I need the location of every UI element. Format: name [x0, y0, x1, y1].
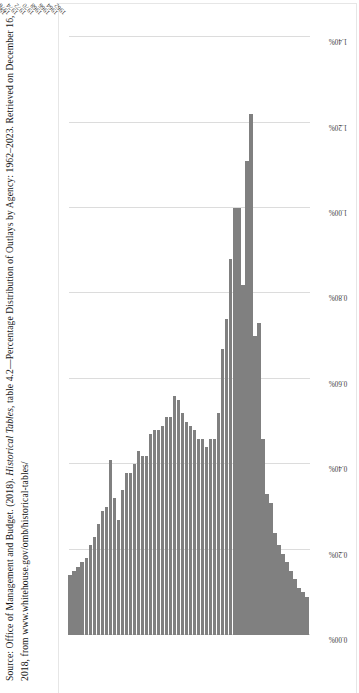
value-tick-label: 1.20%	[329, 123, 348, 131]
bar	[245, 161, 248, 635]
bar	[265, 494, 268, 635]
bar	[213, 439, 216, 635]
bar	[301, 592, 304, 635]
bar	[125, 473, 128, 635]
value-tick-label: 0.60%	[329, 379, 348, 387]
bar	[85, 558, 88, 635]
value-axis-labels: 0.00%0.20%0.40%0.60%0.80%1.00%1.20%1.40%	[310, 16, 356, 635]
value-tick-label: 1.40%	[329, 37, 348, 45]
bar	[233, 208, 236, 635]
bar	[105, 507, 108, 635]
bar	[257, 323, 260, 635]
bar	[293, 580, 296, 636]
bar	[97, 524, 100, 635]
value-tick-label: 0.40%	[329, 464, 348, 472]
bar	[277, 545, 280, 635]
bar	[185, 422, 188, 635]
bar	[189, 426, 192, 635]
bar	[109, 460, 112, 635]
bar	[221, 349, 224, 635]
bar	[249, 114, 252, 635]
plot-area: 1962196419661968197019721974197619771979…	[69, 16, 310, 635]
bar	[121, 490, 124, 635]
bar	[145, 456, 148, 635]
bar	[157, 430, 160, 635]
bar	[93, 537, 96, 635]
bar	[297, 588, 300, 635]
bar	[205, 447, 208, 635]
bar	[68, 575, 71, 635]
value-tick-label: 1.00%	[329, 208, 348, 216]
source-note: Source: Office of Management and Budget.…	[2, 11, 32, 681]
bar	[261, 439, 264, 635]
bar	[149, 434, 152, 635]
bar-series	[69, 16, 310, 635]
bar	[237, 208, 240, 635]
bar	[89, 545, 92, 635]
bar	[253, 336, 256, 635]
bar	[273, 533, 276, 635]
bar	[193, 430, 196, 635]
bar	[201, 439, 204, 635]
bar	[76, 567, 79, 635]
bar	[289, 571, 292, 635]
bar	[141, 456, 144, 635]
bar	[72, 571, 75, 635]
bar	[133, 464, 136, 635]
source-prefix: Source: Office of Management and Budget.…	[4, 476, 15, 681]
chart-frame: 1962196419661968197019721974197619771979…	[58, 3, 357, 693]
bar	[229, 259, 232, 635]
bar	[305, 597, 308, 635]
source-italic-title: Historical Tables	[4, 408, 15, 476]
bar	[101, 511, 104, 635]
bar	[161, 426, 164, 635]
bar	[129, 473, 132, 635]
bar	[181, 413, 184, 635]
bar	[177, 400, 180, 635]
bar	[117, 520, 120, 635]
bar	[225, 319, 228, 635]
bar	[209, 439, 212, 635]
bar	[281, 554, 284, 635]
rotated-figure-canvas: Source: Office of Management and Budget.…	[0, 0, 359, 693]
value-tick-label: 0.00%	[329, 635, 348, 643]
bar	[197, 439, 200, 635]
bar	[165, 417, 168, 635]
bar	[173, 396, 176, 635]
bar	[113, 498, 116, 635]
bar	[153, 430, 156, 635]
value-tick-label: 0.80%	[329, 293, 348, 301]
value-tick-label: 0.20%	[329, 550, 348, 558]
bar	[285, 562, 288, 635]
bar	[169, 417, 172, 635]
bar	[241, 285, 244, 635]
bar	[137, 451, 140, 635]
bar	[80, 562, 83, 635]
figure: Source: Office of Management and Budget.…	[0, 0, 359, 693]
bar	[217, 413, 220, 635]
bar	[269, 503, 272, 635]
